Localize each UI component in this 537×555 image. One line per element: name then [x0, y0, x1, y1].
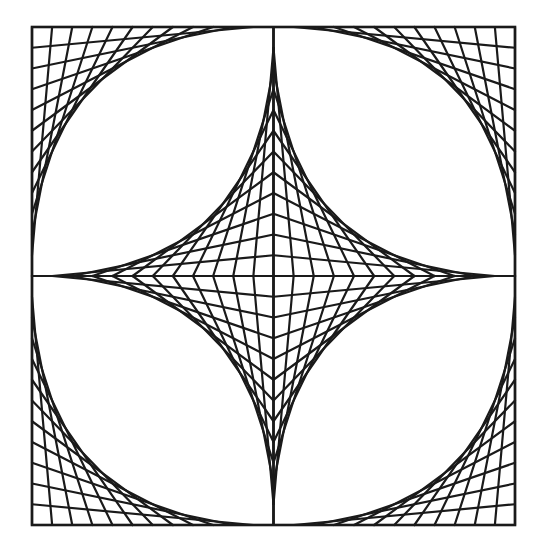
stitch-line-bottom-right	[314, 484, 515, 526]
stitch-line-top-left	[32, 27, 233, 69]
stitch-line-top-right	[314, 27, 515, 69]
astroid-line-bottom-right	[274, 276, 375, 421]
stitch-line-bottom-left	[32, 421, 173, 525]
astroid-line-top-right	[274, 131, 375, 276]
stitch-line-top-left	[32, 27, 173, 131]
stitch-line-bottom-right	[374, 421, 515, 525]
astroid-line-top-left	[233, 69, 273, 277]
astroid-line-bottom-right	[274, 276, 314, 484]
stitch-line-bottom-left	[32, 484, 233, 526]
stitch-line-top-right	[374, 27, 515, 131]
string-art-figure: Curve stitching pattern: inscribed circl…	[0, 0, 537, 555]
astroid-line-bottom-left	[233, 276, 273, 484]
astroid-line-top-right	[274, 69, 314, 277]
astroid-line-top-left	[173, 131, 274, 276]
astroid-line-bottom-left	[173, 276, 274, 421]
center-axes	[32, 27, 515, 525]
